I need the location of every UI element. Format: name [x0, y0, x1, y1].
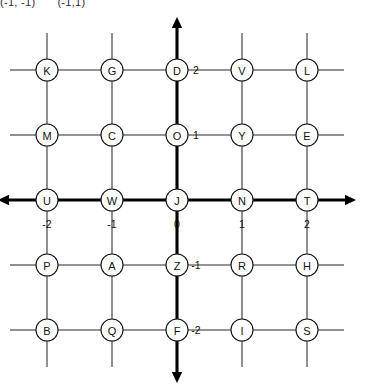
lattice-node-label: Q — [108, 325, 117, 337]
y-axis-down-arrowhead — [172, 372, 182, 383]
lattice-node-label: F — [174, 325, 181, 337]
y-axis-tick-label: -1 — [191, 259, 200, 271]
x-axis-tick-label: 2 — [304, 218, 310, 230]
lattice-node-label: I — [240, 325, 243, 337]
lattice-node-label: R — [238, 260, 246, 272]
lattice-node-label: Y — [238, 130, 246, 142]
y-axis-up-arrowhead — [172, 17, 182, 28]
lattice-node-label: Z — [174, 260, 181, 272]
lattice-node-label: T — [304, 195, 311, 207]
lattice-node-label: P — [43, 260, 50, 272]
lattice-node-label: W — [107, 195, 118, 207]
x-axis-right-arrowhead — [345, 195, 356, 205]
lattice-node-label: D — [173, 65, 181, 77]
x-axis-tick-label: 1 — [239, 218, 245, 230]
lattice-node-label: V — [238, 65, 246, 77]
lattice-node-label: H — [303, 260, 311, 272]
lattice-node-label: S — [303, 325, 310, 337]
lattice-node-label: M — [42, 130, 51, 142]
lattice-node-label: B — [43, 325, 50, 337]
lattice-node-label: O — [173, 130, 182, 142]
lattice-node-label: K — [43, 65, 51, 77]
x-axis-tick-label: 0 — [174, 218, 180, 230]
lattice-node-label: C — [108, 130, 116, 142]
coordinate-lattice-figure: (-1, -1)(-1,1) KGDVLMCOYEUWJNTPAZRHBQFIS… — [0, 0, 366, 386]
lattice-node-label: U — [43, 195, 51, 207]
lattice-node-label: E — [303, 130, 310, 142]
lattice-node-label: G — [108, 65, 117, 77]
lattice-node-label: A — [108, 260, 116, 272]
x-axis-tick-label: -2 — [42, 218, 51, 230]
lattice-svg: KGDVLMCOYEUWJNTPAZRHBQFIS -2-101221-1-2 — [0, 0, 366, 386]
lattice-node-label: J — [174, 195, 180, 207]
y-axis-tick-label: 1 — [193, 129, 199, 141]
y-axis-tick-label: 2 — [193, 64, 199, 76]
y-axis-tick-label: -2 — [191, 324, 200, 336]
lattice-node-label: L — [304, 65, 310, 77]
lattice-node-label: N — [238, 195, 246, 207]
x-axis-tick-label: -1 — [107, 218, 116, 230]
x-axis-left-arrowhead — [0, 195, 9, 205]
